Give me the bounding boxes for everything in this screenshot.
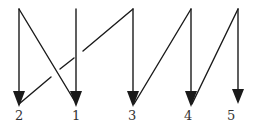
connector-2-top-to-1-tip <box>19 9 74 100</box>
label-1: 1 <box>72 108 80 123</box>
label-4: 4 <box>184 108 192 123</box>
arrow-sequence-diagram: 2 1 3 4 5 <box>0 0 256 127</box>
label-5: 5 <box>227 108 235 123</box>
connector-4-tip-to-5-top <box>192 9 238 104</box>
arrow-5-head-icon <box>232 89 244 104</box>
arrow-1-head-icon <box>70 91 82 107</box>
arrow-4-head-icon <box>185 91 197 107</box>
connector-2-tip-to-3-top-segment-b <box>60 58 74 69</box>
connector-2-tip-to-3-top-segment-a <box>19 77 51 104</box>
arrow-2-head-icon <box>13 91 25 107</box>
label-3: 3 <box>128 108 136 123</box>
label-2: 2 <box>15 108 23 123</box>
connector-3-tip-to-4-top <box>134 9 191 104</box>
connector-2-tip-to-3-top-segment-c <box>83 9 133 51</box>
